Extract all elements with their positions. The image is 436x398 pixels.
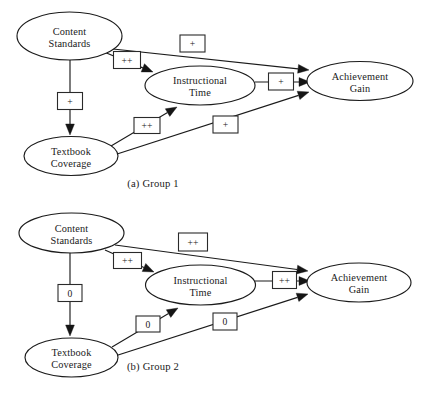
arrowhead-group-2-tc-to-ag xyxy=(296,293,308,301)
node-label-group-1-instructional-time-line2: Time xyxy=(189,87,211,98)
edge-label-text-group-1-cs-to-ag: + xyxy=(190,38,196,49)
edge-label-text-group-1-cs-to-tc: + xyxy=(67,96,73,107)
arrowhead-group-1-cs-to-it xyxy=(141,64,153,72)
edge-label-box-group-1-cs-to-ag: + xyxy=(180,35,205,52)
node-group-2-instructional-time[interactable]: InstructionalTime xyxy=(146,265,256,305)
node-group-2-textbook-coverage[interactable]: TextbookCoverage xyxy=(25,338,118,377)
edge-label-text-group-2-tc-to-it: 0 xyxy=(146,319,151,330)
edge-label-box-group-1-cs-to-tc: + xyxy=(58,93,83,110)
arrowhead-group-1-tc-to-ag xyxy=(297,91,309,99)
panel-group-1: ++++++++ContentStandardsInstructionalTim… xyxy=(17,12,413,190)
edge-label-box-group-2-cs-to-it: ++ xyxy=(114,253,142,269)
edge-label-box-group-1-tc-to-it: ++ xyxy=(134,118,160,134)
edge-label-box-group-2-tc-to-ag: 0 xyxy=(213,313,237,330)
arrowhead-group-1-tc-to-it xyxy=(165,107,177,116)
node-label-group-2-achievement-gain-line1: Achievement xyxy=(331,272,388,283)
node-group-2-achievement-gain[interactable]: AchievementGain xyxy=(307,263,411,302)
arrowhead-group-2-cs-to-tc xyxy=(66,325,75,336)
node-group-1-textbook-coverage[interactable]: TextbookCoverage xyxy=(24,137,118,176)
arrowhead-group-1-cs-to-tc xyxy=(66,124,75,135)
node-label-group-1-textbook-coverage-line1: Textbook xyxy=(51,146,92,157)
node-label-group-1-textbook-coverage-line2: Coverage xyxy=(51,158,92,169)
path-diagram-figure: ++++++++ContentStandardsInstructionalTim… xyxy=(0,0,436,398)
edge-label-box-group-1-it-to-ag: + xyxy=(269,73,294,90)
caption-group-1: (a) Group 1 xyxy=(127,178,179,190)
node-label-group-2-instructional-time-line2: Time xyxy=(190,287,212,298)
node-label-group-1-achievement-gain-line1: Achievement xyxy=(332,71,389,82)
node-group-2-content-standards[interactable]: ContentStandards xyxy=(19,213,124,253)
edge-label-box-group-2-it-to-ag: ++ xyxy=(273,272,297,289)
node-label-group-2-textbook-coverage-line1: Textbook xyxy=(52,347,93,358)
diagram-canvas: ++++++++ContentStandardsInstructionalTim… xyxy=(0,0,436,398)
edge-label-text-group-1-tc-to-ag: + xyxy=(223,119,229,130)
node-label-group-1-content-standards-line1: Content xyxy=(53,26,87,37)
panel-group-2: ++++0++00ContentStandardsInstructionalTi… xyxy=(19,213,411,377)
node-group-1-content-standards[interactable]: ContentStandards xyxy=(17,12,122,60)
edge-label-text-group-2-cs-to-ag: ++ xyxy=(187,237,198,248)
arrowhead-group-2-cs-to-it xyxy=(142,263,154,272)
node-label-group-2-content-standards-line1: Content xyxy=(55,223,89,234)
edge-label-text-group-2-tc-to-ag: 0 xyxy=(223,316,228,327)
node-label-group-2-textbook-coverage-line2: Coverage xyxy=(51,359,92,370)
node-label-group-1-content-standards-line2: Standards xyxy=(49,38,91,49)
edge-label-text-group-2-cs-to-tc: 0 xyxy=(68,288,73,299)
edge-label-box-group-2-tc-to-it: 0 xyxy=(136,316,160,332)
edge-label-text-group-1-cs-to-it: ++ xyxy=(121,55,132,66)
arrowhead-group-2-tc-to-it xyxy=(166,308,178,317)
node-label-group-1-achievement-gain-line2: Gain xyxy=(350,83,371,94)
edge-label-box-group-1-cs-to-it: ++ xyxy=(114,52,141,69)
edge-label-box-group-2-cs-to-ag: ++ xyxy=(179,233,208,251)
edge-label-text-group-1-tc-to-it: ++ xyxy=(141,120,152,131)
node-label-group-2-achievement-gain-line2: Gain xyxy=(349,284,370,295)
edge-label-box-group-2-cs-to-tc: 0 xyxy=(58,285,82,302)
edge-label-text-group-1-it-to-ag: + xyxy=(278,76,284,87)
arrowhead-group-1-cs-to-ag xyxy=(298,64,309,73)
edge-label-text-group-2-cs-to-it: ++ xyxy=(122,255,133,266)
node-label-group-2-content-standards-line2: Standards xyxy=(51,235,93,246)
node-label-group-1-instructional-time-line1: Instructional xyxy=(173,75,227,86)
edge-label-box-group-1-tc-to-ag: + xyxy=(213,116,238,133)
node-label-group-2-instructional-time-line1: Instructional xyxy=(174,275,228,286)
arrowhead-group-2-cs-to-ag xyxy=(297,265,308,274)
node-group-1-achievement-gain[interactable]: AchievementGain xyxy=(307,62,413,101)
edge-label-text-group-2-it-to-ag: ++ xyxy=(279,275,290,286)
caption-group-2: (b) Group 2 xyxy=(127,361,179,373)
node-group-1-instructional-time[interactable]: InstructionalTime xyxy=(145,66,255,105)
